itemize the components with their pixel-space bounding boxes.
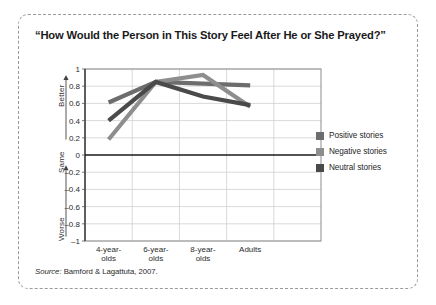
svg-text:–0.4: –0.4: [64, 185, 80, 194]
chart-legend: Positive stories Negative stories Neutra…: [316, 128, 416, 176]
y-axis-direction-arrows: [63, 75, 68, 237]
source-note: Source: Bamford & Lagattuta, 2007.: [35, 267, 158, 276]
svg-text:olds: olds: [101, 254, 116, 263]
svg-text:8-year-: 8-year-: [190, 245, 216, 254]
svg-text:olds: olds: [196, 254, 211, 263]
svg-text:1: 1: [76, 65, 81, 74]
svg-text:olds: olds: [148, 254, 163, 263]
legend-swatch-negative-stories: [316, 148, 324, 156]
legend-swatch-neutral-stories: [316, 164, 324, 172]
source-keyword: Source:: [35, 267, 62, 276]
legend-swatch-positive-stories: [316, 132, 324, 140]
svg-text:Adults: Adults: [239, 245, 261, 254]
source-citation: Bamford & Lagattuta, 2007.: [62, 267, 158, 276]
svg-text:–0.8: –0.8: [64, 220, 80, 229]
x-axis-tick-labels: 4-year-olds6-year-olds8-year-oldsAdults: [96, 245, 261, 263]
legend-label-positive-stories: Positive stories: [329, 131, 383, 140]
svg-text:0.2: 0.2: [69, 134, 81, 143]
figure-frame: “How Would the Person in This Story Feel…: [18, 14, 418, 289]
legend-item-neutral-stories[interactable]: Neutral stories: [316, 160, 416, 175]
legend-label-neutral-stories: Neutral stories: [329, 163, 381, 172]
legend-item-positive-stories[interactable]: Positive stories: [316, 128, 416, 143]
svg-text:0.8: 0.8: [69, 82, 81, 91]
svg-text:6-year-: 6-year-: [143, 245, 169, 254]
y-axis-tick-labels: 10.80.60.40.20–0.2–0.4–0.6–0.8–1: [64, 65, 85, 246]
legend-label-negative-stories: Negative stories: [329, 147, 387, 156]
svg-text:0: 0: [76, 151, 81, 160]
svg-text:0.6: 0.6: [69, 99, 81, 108]
svg-text:4-year-: 4-year-: [96, 245, 122, 254]
svg-text:0.4: 0.4: [69, 117, 81, 126]
legend-item-negative-stories[interactable]: Negative stories: [316, 144, 416, 159]
svg-text:–1: –1: [71, 237, 80, 246]
svg-text:–0.6: –0.6: [64, 203, 80, 212]
